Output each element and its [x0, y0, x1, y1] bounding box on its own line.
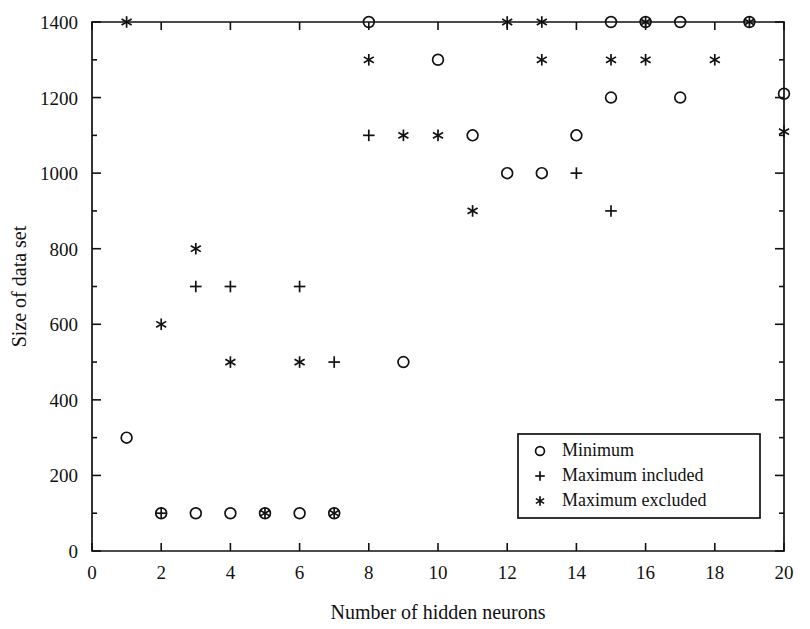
y-axis-title: Size of data set	[8, 225, 30, 347]
x-axis-title: Number of hidden neurons	[331, 601, 546, 623]
legend-label: Maximum included	[562, 465, 703, 485]
y-axis-tick-label: 800	[50, 239, 79, 260]
x-axis-tick-label: 12	[498, 562, 517, 583]
y-axis-tick-label: 200	[50, 465, 79, 486]
y-axis-tick-label: 1400	[40, 12, 78, 33]
x-axis-tick-label: 18	[705, 562, 724, 583]
legend-label: Maximum excluded	[562, 490, 706, 510]
plot-canvas: 0246810121416182002004006008001000120014…	[0, 0, 810, 629]
x-axis-tick-label: 14	[567, 562, 587, 583]
x-axis-tick-label: 20	[775, 562, 794, 583]
scatter-plot-figure: 0246810121416182002004006008001000120014…	[0, 0, 810, 629]
x-axis-tick-label: 16	[636, 562, 655, 583]
y-axis-tick-label: 1200	[40, 88, 78, 109]
y-axis-tick-label: 1000	[40, 163, 78, 184]
plot-background	[0, 0, 810, 629]
x-axis-tick-label: 8	[364, 562, 374, 583]
y-axis-tick-label: 400	[50, 390, 79, 411]
legend: MinimumMaximum includedMaximum excluded	[518, 434, 760, 518]
x-axis-tick-label: 4	[226, 562, 236, 583]
y-axis-tick-label: 0	[69, 541, 79, 562]
y-axis-tick-label: 600	[50, 314, 79, 335]
legend-label: Minimum	[562, 440, 634, 460]
x-axis-tick-label: 10	[429, 562, 448, 583]
x-axis-tick-label: 0	[87, 562, 97, 583]
x-axis-tick-label: 6	[295, 562, 305, 583]
x-axis-tick-label: 2	[156, 562, 166, 583]
